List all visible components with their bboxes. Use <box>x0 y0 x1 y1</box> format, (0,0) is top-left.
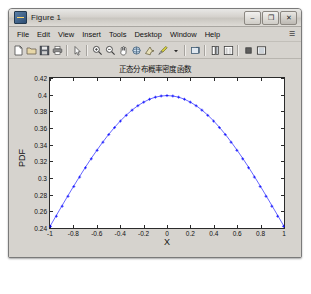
data-cursor-icon[interactable] <box>143 44 155 56</box>
menu-item-view[interactable]: View <box>54 30 78 39</box>
toolbar-separator <box>66 45 68 56</box>
y-tick-label: 0.34 <box>34 141 47 148</box>
x-tick-label: 0.4 <box>209 230 218 237</box>
toolbar-separator <box>204 45 206 56</box>
menu-item-tools[interactable]: Tools <box>105 30 131 39</box>
brush-icon[interactable] <box>156 44 168 56</box>
menu-item-help[interactable]: Help <box>201 30 224 39</box>
x-tick-label: -1 <box>47 230 53 237</box>
y-axis-label: PDF <box>17 149 27 167</box>
y-tick-label: 0.3 <box>38 175 47 182</box>
menu-bar: File Edit View Insert Tools Desktop Wind… <box>9 27 301 42</box>
pointer-arrow-icon[interactable] <box>71 44 83 56</box>
y-tick-label: 0.42 <box>34 75 47 82</box>
x-tick-label: -0.8 <box>68 230 79 237</box>
print-figure-icon[interactable] <box>51 44 63 56</box>
x-tick-label: 0.6 <box>233 230 242 237</box>
title-bar[interactable]: Figure 1 – ❐ ✕ <box>9 9 301 27</box>
close-button[interactable]: ✕ <box>280 11 297 25</box>
x-tick-label: 0 <box>165 230 169 237</box>
pdf-markers <box>50 78 284 228</box>
window-controls: – ❐ ✕ <box>244 11 299 25</box>
y-tick-mark <box>50 228 53 229</box>
y-tick-label: 0.36 <box>34 125 47 132</box>
chart-title: 正态分布概率密度函数 <box>11 63 299 74</box>
plot-area[interactable]: 0.240.260.280.30.320.340.360.380.40.42 -… <box>49 77 285 229</box>
colorbar-icon[interactable] <box>209 44 221 56</box>
menu-item-file[interactable]: File <box>13 30 33 39</box>
figure-canvas[interactable]: 正态分布概率密度函数 PDF X 0.240.260.280.30.320.34… <box>9 59 301 257</box>
menu-item-desktop[interactable]: Desktop <box>130 30 166 39</box>
show-plot-tools-icon[interactable] <box>255 44 267 56</box>
figure-inner: 正态分布概率密度函数 PDF X 0.240.260.280.30.320.34… <box>11 61 299 255</box>
toolbar-separator <box>237 45 239 56</box>
x-tick-label: -0.6 <box>91 230 102 237</box>
x-tick-label: 1 <box>282 230 286 237</box>
minimize-button[interactable]: – <box>244 11 261 25</box>
maximize-button[interactable]: ❐ <box>262 11 279 25</box>
zoom-out-icon[interactable] <box>104 44 116 56</box>
toolbar-separator <box>184 45 186 56</box>
toolbar-separator <box>86 45 88 56</box>
link-plot-icon[interactable] <box>189 44 201 56</box>
rotate-3d-icon[interactable] <box>130 44 142 56</box>
y-tick-label: 0.32 <box>34 158 47 165</box>
menu-overflow-icon[interactable]: ☰ <box>289 30 297 38</box>
x-axis-label: X <box>49 237 285 247</box>
y-tick-label: 0.28 <box>34 191 47 198</box>
brush-dropdown-icon[interactable] <box>169 44 181 56</box>
zoom-in-icon[interactable] <box>91 44 103 56</box>
y-tick-label: 0.26 <box>34 208 47 215</box>
menu-item-insert[interactable]: Insert <box>78 30 105 39</box>
open-file-icon[interactable] <box>25 44 37 56</box>
legend-icon[interactable] <box>222 44 234 56</box>
y-tick-mark <box>281 228 284 229</box>
matlab-figure-icon <box>14 11 27 24</box>
hide-plot-tools-icon[interactable] <box>242 44 254 56</box>
y-tick-label: 0.4 <box>38 91 47 98</box>
x-tick-label: -0.2 <box>138 230 149 237</box>
x-tick-label: -0.4 <box>115 230 126 237</box>
x-tick-label: 0.2 <box>186 230 195 237</box>
y-tick-label: 0.24 <box>34 225 47 232</box>
toolbar <box>9 42 301 59</box>
save-figure-icon[interactable] <box>38 44 50 56</box>
figure-window: Figure 1 – ❐ ✕ File Edit View Insert Too… <box>8 8 302 258</box>
y-tick-label: 0.38 <box>34 108 47 115</box>
window-title: Figure 1 <box>31 13 61 22</box>
x-tick-label: 0.8 <box>256 230 265 237</box>
new-figure-icon[interactable] <box>12 44 24 56</box>
menu-item-window[interactable]: Window <box>166 30 201 39</box>
x-tick-mark <box>284 78 285 81</box>
pan-hand-icon[interactable] <box>117 44 129 56</box>
menu-item-edit[interactable]: Edit <box>33 30 54 39</box>
